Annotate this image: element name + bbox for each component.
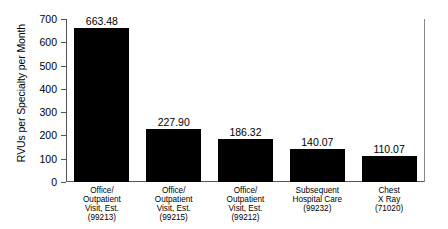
bar[interactable] — [362, 156, 417, 182]
bar[interactable] — [74, 28, 129, 182]
bar-group[interactable]: 186.32 — [218, 19, 273, 182]
x-category-label-line: Visit, Est. — [210, 204, 282, 213]
bar-value-label: 140.07 — [301, 137, 333, 148]
x-category-label-line: (99215) — [138, 213, 210, 222]
bar-group[interactable]: 227.90 — [146, 19, 201, 182]
y-tick-label: 500 — [17, 61, 57, 71]
y-tick-label: 700 — [17, 14, 57, 24]
bar-value-label: 110.07 — [373, 144, 404, 155]
bar-value-label: 663.48 — [86, 16, 118, 27]
bar-chart: RVUs per Specialty per Month 70060050040… — [0, 0, 448, 229]
bar-value-label: 227.90 — [158, 117, 190, 128]
x-category-label-line: Chest — [353, 186, 425, 195]
bar[interactable] — [146, 129, 201, 182]
bar-group[interactable]: 140.07 — [290, 19, 345, 182]
x-category-label-line: (99212) — [210, 213, 282, 222]
y-tick-mark — [61, 182, 66, 183]
x-category-label-line: Office/ — [210, 186, 282, 195]
y-tick-label: 200 — [17, 130, 57, 140]
x-category-label: SubsequentHospital Care(99232) — [281, 186, 353, 213]
y-tick-label: 300 — [17, 107, 57, 117]
x-category-label-line: X Ray — [353, 195, 425, 204]
x-category-label-line: Visit, Est. — [66, 204, 138, 213]
x-category-label: Office/OutpatientVisit, Est.(99213) — [66, 186, 138, 222]
x-category-label-line: (99213) — [66, 213, 138, 222]
x-category-label-line: Hospital Care — [281, 195, 353, 204]
bar-group[interactable]: 110.07 — [362, 19, 417, 182]
x-category-label-line: (99232) — [281, 204, 353, 213]
bar[interactable] — [218, 139, 273, 182]
y-tick-label: 100 — [17, 154, 57, 164]
plot-area: 663.48227.90186.32140.07110.07 — [66, 19, 425, 182]
bar[interactable] — [290, 149, 345, 182]
x-category-label-line: Visit, Est. — [138, 204, 210, 213]
y-tick-label: 600 — [17, 37, 57, 47]
bar-value-label: 186.32 — [229, 127, 261, 138]
x-category-label-line: (71020) — [353, 204, 425, 213]
x-category-label-line: Outpatient — [210, 195, 282, 204]
bar-group[interactable]: 663.48 — [74, 19, 129, 182]
x-category-label: Office/OutpatientVisit, Est.(99212) — [210, 186, 282, 222]
x-category-label-line: Office/ — [138, 186, 210, 195]
x-category-label: ChestX Ray(71020) — [353, 186, 425, 213]
x-category-label-line: Outpatient — [138, 195, 210, 204]
x-category-label-line: Subsequent — [281, 186, 353, 195]
y-tick-label: 400 — [17, 84, 57, 94]
x-category-label: Office/OutpatientVisit, Est.(99215) — [138, 186, 210, 222]
x-category-label-line: Office/ — [66, 186, 138, 195]
y-tick-label: 0 — [17, 177, 57, 187]
x-category-label-line: Outpatient — [66, 195, 138, 204]
